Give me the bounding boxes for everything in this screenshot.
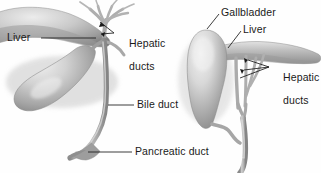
left-panel-group	[0, 0, 134, 160]
label-bile-duct: Bile duct	[137, 99, 178, 111]
cystic-duct-right	[212, 124, 240, 143]
label-hepatic-ducts-right-line1: Hepatic	[283, 71, 319, 83]
label-hepatic-ducts-right-line2: ducts	[283, 94, 309, 106]
label-liver-left: Liver	[7, 32, 30, 44]
label-hepatic-ducts-left-line1: Hepatic	[129, 37, 165, 49]
anatomy-figure: Liver Hepatic ducts Bile duct Pancreatic…	[0, 0, 321, 173]
label-hepatic-ducts-right: Hepatic ducts	[271, 60, 319, 118]
label-hepatic-ducts-left-line2: ducts	[129, 60, 155, 72]
leader-gallbladder	[207, 14, 219, 29]
label-hepatic-ducts-left: Hepatic ducts	[117, 26, 165, 84]
label-liver-right: Liver	[243, 24, 266, 36]
label-pancreatic-duct: Pancreatic duct	[135, 146, 209, 158]
gallbladder-right-highlight	[192, 37, 214, 71]
label-gallbladder: Gallbladder	[221, 7, 276, 19]
pancreatic-duct-left	[72, 143, 100, 160]
arrowhead-hepatic-right-2	[240, 69, 244, 74]
